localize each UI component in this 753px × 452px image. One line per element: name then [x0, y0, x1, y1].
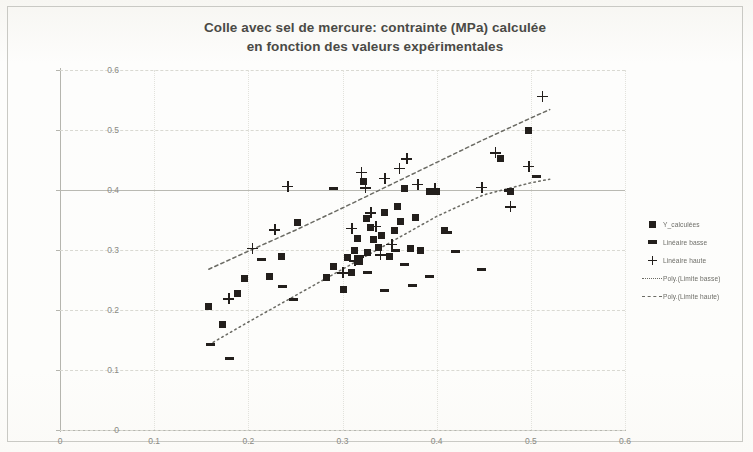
y-tick-mark: [56, 250, 60, 251]
data-point-plus: [537, 91, 548, 102]
chart-title: Colle avec sel de mercure: contrainte (M…: [140, 18, 610, 56]
plot-area: [60, 70, 625, 430]
data-point-square: [401, 185, 408, 192]
data-point-plus: [247, 243, 258, 254]
legend-item-label: Y_calculées: [663, 221, 700, 228]
data-point-square: [525, 127, 532, 134]
legend-item-2[interactable]: Linéaire haute: [641, 251, 749, 269]
data-point-dash: [257, 258, 266, 261]
trend-curve-limite-basse: [209, 179, 550, 345]
data-point-plus: [365, 207, 376, 218]
y-tick-label-0.2: 0.2: [85, 305, 119, 315]
chart-title-line-2: en fonction des valeurs expérimentales: [140, 37, 610, 56]
dash-icon: [648, 240, 657, 244]
gridline-x-0.6: [625, 70, 626, 430]
data-point-dash: [225, 357, 234, 360]
data-point-square: [412, 214, 419, 221]
data-point-dash: [425, 275, 434, 278]
x-tick-label-0.3: 0.3: [323, 436, 363, 446]
y-tick-label-0.3: 0.3: [85, 245, 119, 255]
data-point-plus: [490, 147, 501, 158]
y-tick-mark: [56, 430, 60, 431]
data-point-square: [323, 274, 330, 281]
data-point-square: [391, 227, 398, 234]
chart-legend: Y_calculéesLinéaire basseLinéaire hauteP…: [641, 215, 749, 305]
data-point-square: [378, 232, 385, 239]
legend-key-icon: [641, 253, 663, 267]
legend-key-icon: [641, 271, 663, 285]
chart-page: Colle avec sel de mercure: contrainte (M…: [0, 0, 753, 452]
square-icon: [649, 221, 656, 228]
data-point-plus: [349, 255, 360, 266]
trend-curves-layer: [60, 70, 625, 430]
legend-item-0[interactable]: Y_calculées: [641, 215, 749, 233]
data-point-plus: [360, 182, 371, 193]
data-point-square: [397, 218, 404, 225]
data-point-square: [364, 249, 371, 256]
data-point-plus: [282, 181, 293, 192]
data-point-plus: [346, 223, 357, 234]
data-point-square: [294, 219, 301, 226]
data-point-dash: [504, 189, 513, 192]
data-point-plus: [412, 179, 423, 190]
data-point-plus: [505, 201, 516, 212]
data-point-square: [394, 203, 401, 210]
legend-key-icon: [641, 217, 663, 231]
data-point-dash: [532, 175, 541, 178]
data-point-dash: [477, 268, 486, 271]
legend-item-1[interactable]: Linéaire basse: [641, 233, 749, 251]
data-point-dash: [380, 289, 389, 292]
x-tick-label-0.2: 0.2: [228, 436, 268, 446]
data-point-square: [234, 290, 241, 297]
legend-item-3[interactable]: Poly.(Limite basse): [641, 269, 749, 287]
legend-key-icon: [641, 235, 663, 249]
data-point-square: [205, 303, 212, 310]
data-point-plus: [386, 239, 397, 250]
legend-item-label: Linéaire basse: [663, 239, 707, 246]
gridline-y-0: [60, 430, 625, 431]
data-point-plus: [394, 163, 405, 174]
data-point-square: [351, 247, 358, 254]
data-point-square: [266, 273, 273, 280]
data-point-plus: [401, 153, 412, 164]
data-point-plus: [269, 224, 280, 235]
data-point-plus: [375, 249, 386, 260]
data-point-plus: [370, 221, 381, 232]
data-point-plus: [429, 183, 440, 194]
data-point-dash: [408, 284, 417, 287]
data-point-plus: [356, 167, 367, 178]
data-point-square: [340, 286, 347, 293]
legend-item-label: Poly.(Limite haute): [663, 293, 719, 300]
x-tick-label-0: 0: [40, 436, 80, 446]
data-point-square: [330, 263, 337, 270]
data-point-square: [219, 321, 226, 328]
x-tick-label-0.1: 0.1: [134, 436, 174, 446]
plus-icon: [648, 256, 657, 265]
y-tick-mark: [56, 70, 60, 71]
data-point-plus: [476, 182, 487, 193]
data-point-square: [417, 247, 424, 254]
y-tick-label-0.6: 0.6: [85, 65, 119, 75]
data-point-plus: [379, 173, 390, 184]
data-point-square: [354, 235, 361, 242]
y-tick-mark: [56, 130, 60, 131]
data-point-dash: [400, 263, 409, 266]
data-point-dash: [289, 298, 298, 301]
data-point-plus: [523, 161, 534, 172]
legend-item-4[interactable]: Poly.(Limite haute): [641, 287, 749, 305]
data-point-square: [381, 209, 388, 216]
dashed-line-icon: [642, 296, 662, 297]
legend-item-label: Linéaire haute: [663, 257, 706, 264]
data-point-plus: [223, 293, 234, 304]
y-tick-label-0.4: 0.4: [85, 185, 119, 195]
x-tick-label-0.5: 0.5: [511, 436, 551, 446]
y-tick-mark: [56, 370, 60, 371]
data-point-square: [386, 253, 393, 260]
y-tick-mark: [56, 190, 60, 191]
data-point-plus: [337, 267, 348, 278]
data-point-square: [348, 269, 355, 276]
data-point-dash: [206, 343, 215, 346]
y-tick-mark: [56, 310, 60, 311]
y-tick-label-0.5: 0.5: [85, 125, 119, 135]
y-tick-label-0: 0: [85, 425, 119, 435]
